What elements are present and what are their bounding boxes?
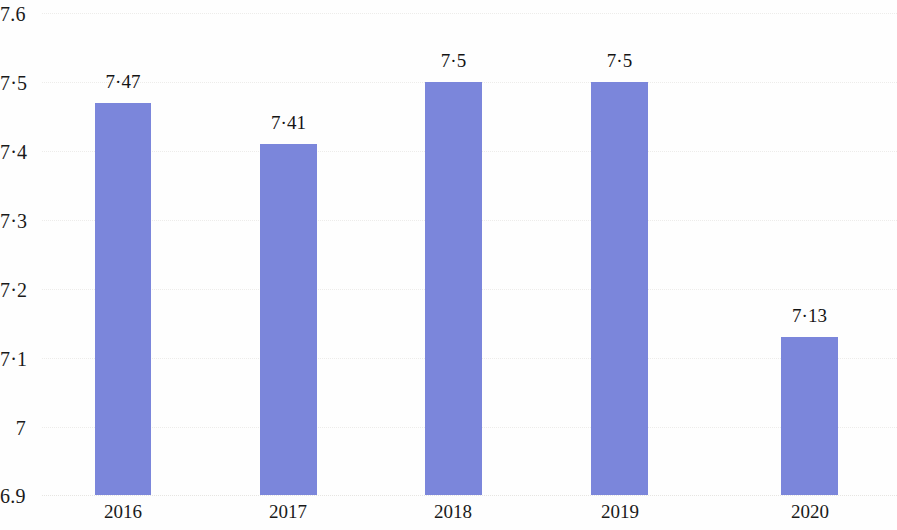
bar-value-2016: 7·47 bbox=[85, 72, 161, 91]
bar-2018[interactable] bbox=[425, 82, 482, 495]
plot-area: 7.6 7·5 7·4 7·3 7·2 7·1 7 6.9 7·47 7·41 … bbox=[0, 0, 897, 530]
bar-chart: 7.6 7·5 7·4 7·3 7·2 7·1 7 6.9 7·47 7·41 … bbox=[0, 0, 897, 530]
y-axis-label-6-9: 6.9 bbox=[0, 486, 38, 506]
y-axis-label-7-6: 7.6 bbox=[0, 4, 38, 24]
bar-2020[interactable] bbox=[781, 337, 838, 495]
bar-value-2018: 7·5 bbox=[415, 51, 492, 70]
y-axis-label-7-4: 7·4 bbox=[0, 142, 38, 162]
bar-2016[interactable] bbox=[95, 103, 151, 495]
bar-2019[interactable] bbox=[591, 82, 648, 495]
gridline-6-9-baseline bbox=[42, 495, 897, 496]
y-axis-label-7-3: 7·3 bbox=[0, 211, 38, 231]
bar-value-2020: 7·13 bbox=[771, 306, 848, 325]
y-axis-label-7-5: 7·5 bbox=[0, 73, 38, 93]
y-axis-label-7-0: 7 bbox=[0, 418, 26, 438]
bar-2017[interactable] bbox=[260, 144, 317, 495]
x-axis-label-2018: 2018 bbox=[413, 502, 493, 521]
y-axis-label-7-1: 7·1 bbox=[0, 349, 38, 369]
gridline-7-6 bbox=[42, 13, 897, 14]
y-axis-label-7-2: 7·2 bbox=[0, 280, 38, 300]
x-axis-label-2020: 2020 bbox=[770, 502, 850, 521]
bar-value-2017: 7·41 bbox=[250, 113, 327, 132]
x-axis-label-2017: 2017 bbox=[248, 502, 328, 521]
bar-value-2019: 7·5 bbox=[581, 51, 658, 70]
x-axis-label-2019: 2019 bbox=[580, 502, 660, 521]
x-axis-label-2016: 2016 bbox=[83, 502, 163, 521]
